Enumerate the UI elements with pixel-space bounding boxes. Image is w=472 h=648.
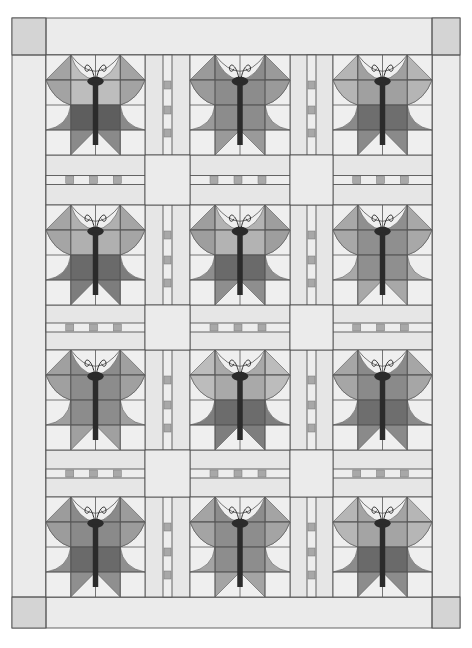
butterfly-r4-c3 <box>333 497 432 597</box>
cornerstone <box>290 155 333 205</box>
butterfly-body <box>380 378 385 441</box>
horizontal-sash <box>333 450 432 497</box>
sash-accent-square <box>113 177 121 184</box>
butterfly-body <box>93 378 98 441</box>
sash-accent-square <box>308 106 315 114</box>
butterfly-r3-c3 <box>333 350 432 450</box>
butterfly-body <box>380 525 385 588</box>
lower-left-wing <box>71 547 96 572</box>
butterfly-r3-c2 <box>190 350 290 450</box>
sash-accent-square <box>164 279 171 287</box>
sash-accent-square <box>66 324 74 331</box>
sash-accent-square <box>164 523 171 531</box>
lower-left-wing <box>358 255 383 280</box>
sash-accent-square <box>308 548 315 556</box>
sash-center-stripe <box>307 55 316 155</box>
sash-accent-square <box>90 470 98 477</box>
sash-center-stripe <box>163 205 172 305</box>
sash-accent-square <box>258 177 266 184</box>
vertical-sash <box>290 55 333 155</box>
cornerstone <box>145 450 190 497</box>
vertical-sash <box>145 350 190 450</box>
vertical-sash <box>290 205 333 305</box>
sash-center-stripe <box>307 350 316 450</box>
horizontal-sash <box>46 305 145 350</box>
vertical-sash <box>145 205 190 305</box>
lower-left-wing <box>358 400 383 425</box>
lower-right-wing <box>96 400 121 425</box>
cornerstone <box>145 155 190 205</box>
sash-accent-square <box>164 571 171 579</box>
sash-accent-square <box>353 470 361 477</box>
sash-accent-square <box>258 324 266 331</box>
lower-right-wing <box>383 255 408 280</box>
horizontal-sash <box>333 155 432 205</box>
corner-square <box>432 597 460 628</box>
butterfly-body <box>93 525 98 588</box>
butterfly-body <box>93 83 98 146</box>
sash-accent-square <box>164 106 171 114</box>
sash-accent-square <box>400 324 408 331</box>
lower-left-wing <box>215 547 240 572</box>
butterfly-r2-c2 <box>190 205 290 305</box>
sash-accent-square <box>210 324 218 331</box>
lower-right-wing <box>383 105 408 130</box>
butterfly-body <box>380 233 385 296</box>
lower-left-wing <box>71 400 96 425</box>
vertical-sash <box>290 497 333 597</box>
sash-accent-square <box>164 376 171 384</box>
horizontal-sash <box>190 155 290 205</box>
sash-accent-square <box>210 177 218 184</box>
butterfly-r1-c1 <box>46 55 145 155</box>
vertical-sash <box>145 55 190 155</box>
sash-accent-square <box>353 177 361 184</box>
sash-accent-square <box>66 177 74 184</box>
horizontal-sash <box>190 305 290 350</box>
lower-right-wing <box>240 547 265 572</box>
sash-accent-square <box>113 470 121 477</box>
sash-accent-square <box>377 177 385 184</box>
butterfly-body <box>237 233 243 296</box>
lower-left-wing <box>71 105 96 130</box>
cornerstone <box>290 305 333 350</box>
sash-accent-square <box>308 376 315 384</box>
quilt-layout <box>0 0 472 648</box>
sash-center-stripe <box>307 205 316 305</box>
sash-accent-square <box>308 571 315 579</box>
horizontal-sash <box>190 450 290 497</box>
butterfly-body <box>93 233 98 296</box>
sash-accent-square <box>164 81 171 89</box>
sash-accent-square <box>258 470 266 477</box>
sash-accent-square <box>308 256 315 264</box>
sash-center-stripe <box>163 55 172 155</box>
sash-accent-square <box>234 470 242 477</box>
butterfly-r1-c2 <box>190 55 290 155</box>
butterfly-r4-c2 <box>190 497 290 597</box>
sash-accent-square <box>66 470 74 477</box>
lower-right-wing <box>240 255 265 280</box>
butterfly-body <box>380 83 385 146</box>
vertical-sash <box>290 350 333 450</box>
sash-accent-square <box>164 129 171 137</box>
lower-right-wing <box>240 400 265 425</box>
butterfly-r3-c1 <box>46 350 145 450</box>
cornerstone <box>290 450 333 497</box>
lower-right-wing <box>96 255 121 280</box>
sash-center-stripe <box>307 497 316 597</box>
cornerstone <box>145 305 190 350</box>
lower-left-wing <box>215 400 240 425</box>
sash-accent-square <box>308 81 315 89</box>
lower-right-wing <box>96 547 121 572</box>
butterfly-r2-c3 <box>333 205 432 305</box>
lower-left-wing <box>215 255 240 280</box>
sash-accent-square <box>308 129 315 137</box>
sash-accent-square <box>90 177 98 184</box>
sash-accent-square <box>400 177 408 184</box>
lower-left-wing <box>358 547 383 572</box>
sash-accent-square <box>164 256 171 264</box>
butterfly-r2-c1 <box>46 205 145 305</box>
sash-center-stripe <box>163 350 172 450</box>
vertical-sash <box>145 497 190 597</box>
sash-accent-square <box>164 548 171 556</box>
horizontal-sash <box>46 450 145 497</box>
